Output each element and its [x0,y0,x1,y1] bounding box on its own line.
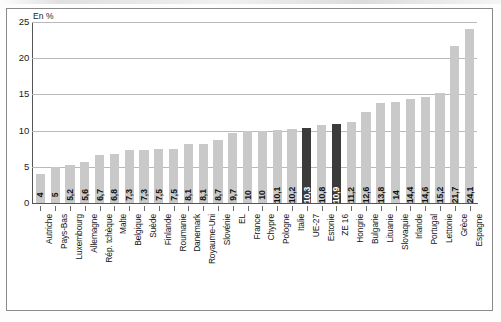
category-slot: UE-27 [299,206,314,306]
bar[interactable]: 6,7 [95,155,104,204]
bar[interactable]: 10,1 [273,130,282,203]
bar-slot: 14,4 [403,22,418,203]
bar[interactable]: 11,2 [347,122,356,203]
category-slot: Lituanie [373,206,388,306]
x-axis-tick [129,206,130,211]
bar[interactable]: 10 [243,131,252,203]
category-slot: Royaume-Uni [196,206,211,306]
y-axis-tick-labels: 2520151050 [0,22,29,204]
bar-value-label: 5 [50,193,60,198]
bar-value-label: 5,2 [65,189,75,201]
bar-slot: 5,2 [63,22,78,203]
x-axis-tick [100,206,101,211]
x-axis-tick [85,206,86,211]
bar[interactable]: 5 [51,167,60,203]
bar[interactable]: 6,8 [110,154,119,203]
x-axis-tick [70,206,71,211]
category-slot: Chypre [255,206,270,306]
bar[interactable]: 7,3 [139,150,148,203]
bar[interactable]: 7,5 [169,149,178,203]
x-axis-tick [336,206,337,211]
bar[interactable]: 21,7 [450,46,459,203]
y-tick-label-10: 10 [19,126,29,136]
y-tick-label-0: 0 [24,198,29,208]
bar-slot: 13,8 [373,22,388,203]
category-slot: Autriche [33,206,48,306]
bar-value-label: 24,1 [465,187,475,203]
bar-value-label: 8,1 [198,189,208,201]
bar-slot: 21,7 [447,22,462,203]
scan-artifact [0,0,501,4]
bar-slot: 6,7 [92,22,107,203]
y-tick-label-5: 5 [24,162,29,172]
bar[interactable]: 13,8 [376,103,385,203]
category-slot: Belgique [122,206,137,306]
bar-slot: 15,2 [433,22,448,203]
bar-slot: 14,6 [418,22,433,203]
category-slot: Slovaquie [388,206,403,306]
bar[interactable]: 7,3 [125,150,134,203]
bar-value-label: 7,3 [124,189,134,201]
x-axis-tick [262,206,263,211]
bar-slot: 10 [255,22,270,203]
bar-value-label: 7,5 [154,189,164,201]
x-axis-tick [55,206,56,211]
bar[interactable]: 8,7 [213,140,222,203]
x-axis-tick [248,206,249,211]
x-axis-tick [425,206,426,211]
bar[interactable]: 9,7 [228,133,237,203]
bar[interactable]: 8,1 [199,144,208,203]
bar[interactable]: 14,6 [421,97,430,203]
bar[interactable]: 15,2 [435,93,444,203]
bar[interactable]: 10,2 [287,129,296,203]
y-tick-label-25: 25 [19,17,29,27]
category-slot: Portugal [418,206,433,306]
bar-value-label: 12,6 [361,187,371,203]
bar-value-label: 8,1 [183,189,193,201]
bar[interactable]: 24,1 [465,29,474,203]
bar-slot: 11,2 [344,22,359,203]
bar-value-label: 10,8 [317,187,327,203]
category-slot: Bulgarie [359,206,374,306]
bar-value-label: 14,6 [420,187,430,203]
bar[interactable]: 10 [258,131,267,203]
x-axis-tick [381,206,382,211]
bar-slot: 12,6 [359,22,374,203]
category-slot: ZE 16 [329,206,344,306]
bar-value-label: 7,5 [169,189,179,201]
category-slot: Pologne [270,206,285,306]
category-slot: Hongrie [344,206,359,306]
bar[interactable]: 7,5 [154,149,163,203]
bar-slot: 8,1 [181,22,196,203]
bar-value-label: 5,6 [80,189,90,201]
bar[interactable]: 14 [391,102,400,203]
bar-slot: 14 [388,22,403,203]
bar-value-label: 10,1 [272,187,282,203]
bar[interactable]: 4 [36,174,45,203]
bar-slot: 8,7 [211,22,226,203]
x-axis-tick [307,206,308,211]
bar[interactable]: 10,3 [302,128,311,203]
x-axis-tick [114,206,115,211]
bar-slot: 7,5 [151,22,166,203]
bar[interactable]: 5,6 [80,162,89,203]
category-slot: Irlande [403,206,418,306]
x-axis-tick [174,206,175,211]
bar[interactable]: 8,1 [184,144,193,203]
bar-slot: 7,3 [122,22,137,203]
category-slot: EL [225,206,240,306]
bar-value-label: 10,2 [287,187,297,203]
category-slot: Finlande [151,206,166,306]
bar-value-label: 9,7 [228,189,238,201]
bar-slot: 9,7 [225,22,240,203]
x-axis-tick [277,206,278,211]
bar-value-label: 10,3 [302,187,312,203]
category-slot: Pays-Bas [48,206,63,306]
bar[interactable]: 12,6 [361,112,370,203]
bar[interactable]: 14,4 [406,99,415,203]
bar[interactable]: 10,8 [317,125,326,203]
chart-figure: En % 2520151050 455,25,66,76,87,37,37,57… [0,0,501,322]
bar[interactable]: 5,2 [65,165,74,203]
x-axis-tick [470,206,471,211]
bar[interactable]: 10,9 [332,124,341,203]
